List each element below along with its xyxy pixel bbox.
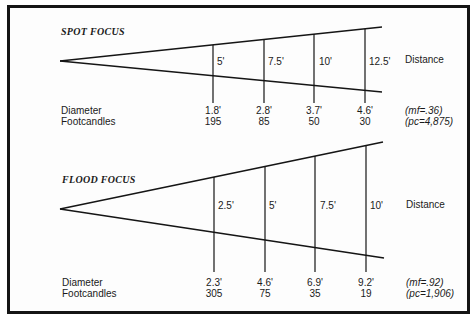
spot-mf-note: (mf=.36): [405, 105, 443, 116]
flood-footcandles-4: 19: [348, 288, 384, 299]
flood-distance-4: 10': [370, 200, 383, 211]
flood-distance-label: Distance: [406, 199, 445, 210]
spot-distance-label: Distance: [405, 54, 444, 65]
flood-mf-note: (mf=.92): [406, 277, 444, 288]
spot-distance-1: 5': [217, 56, 224, 67]
spot-diameter-3: 3.7': [296, 105, 332, 116]
flood-diameter-3: 6.9': [297, 277, 333, 288]
flood-beam-lower-edge: [60, 209, 384, 258]
flood-distance-1: 2.5': [218, 200, 234, 211]
flood-diameter-label: Diameter: [62, 277, 103, 288]
spot-footcandles-4: 30: [347, 116, 383, 127]
flood-footcandles-3: 35: [297, 288, 333, 299]
flood-distance-2: 5': [269, 200, 276, 211]
flood-footcandles-label: Footcandles: [62, 288, 116, 299]
flood-footcandles-2: 75: [247, 288, 283, 299]
spot-distance-4: 12.5': [369, 56, 390, 67]
flood-distance-3: 7.5': [320, 200, 336, 211]
flood-diameter-1: 2.3': [196, 277, 232, 288]
spot-footcandles-2: 85: [246, 116, 282, 127]
spot-diameter-label: Diameter: [61, 105, 102, 116]
flood-diameter-2: 4.6': [247, 277, 283, 288]
flood-focus-title: FLOOD FOCUS: [62, 174, 136, 185]
spot-distance-2: 7.5': [268, 56, 284, 67]
spot-diameter-4: 4.6': [347, 105, 383, 116]
spot-footcandles-1: 195: [195, 116, 231, 127]
spot-focus-title: SPOT FOCUS: [61, 26, 125, 37]
spot-pc-note: (pc=4,875): [405, 116, 453, 127]
flood-footcandles-1: 305: [196, 288, 232, 299]
spot-diameter-2: 2.8': [246, 105, 282, 116]
flood-diameter-4: 9.2': [348, 277, 384, 288]
spot-diameter-1: 1.8': [195, 105, 231, 116]
spot-footcandles-label: Footcandles: [61, 116, 115, 127]
flood-pc-note: (pc=1,906): [406, 288, 454, 299]
beam-diagram: [0, 0, 474, 319]
spot-footcandles-3: 50: [296, 116, 332, 127]
spot-distance-3: 10': [319, 56, 332, 67]
